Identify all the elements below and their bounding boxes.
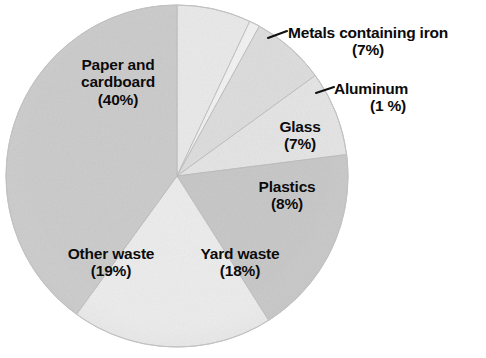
slice-label-paper-and-cardboard-line2: cardboard [52, 73, 184, 90]
slice-label-other-waste: Other waste (19%) [42, 245, 180, 280]
slice-label-glass: Glass (7%) [256, 118, 344, 153]
slice-label-yard-waste: Yard waste (18%) [178, 245, 302, 280]
slice-value-glass: (7%) [256, 135, 344, 152]
slice-value-yard-waste: (18%) [178, 262, 302, 279]
slice-label-other-waste-text: Other waste [42, 245, 180, 262]
slice-label-metals-containing-iron: Metals containing iron (7%) [288, 24, 486, 59]
slice-label-yard-waste-text: Yard waste [178, 245, 302, 262]
pie-chart-figure: Paper and cardboard (40%) Other waste (1… [0, 0, 486, 358]
slice-value-other-waste: (19%) [42, 262, 180, 279]
slice-label-paper-and-cardboard: Paper and cardboard (40%) [52, 56, 184, 108]
slice-value-metals-containing-iron: (7%) [288, 41, 448, 58]
slice-value-paper-and-cardboard: (40%) [52, 91, 184, 108]
slice-label-paper-and-cardboard-line1: Paper and [52, 56, 184, 73]
slice-label-glass-text: Glass [256, 118, 344, 135]
slice-label-aluminum: Aluminum (1 %) [334, 80, 484, 115]
slice-value-plastics: (8%) [232, 195, 342, 212]
slice-label-aluminum-text: Aluminum [334, 80, 484, 97]
slice-value-aluminum: (1 %) [334, 97, 442, 114]
slice-label-plastics: Plastics (8%) [232, 178, 342, 213]
slice-label-metals-containing-iron-text: Metals containing iron [288, 24, 486, 41]
slice-label-plastics-text: Plastics [232, 178, 342, 195]
